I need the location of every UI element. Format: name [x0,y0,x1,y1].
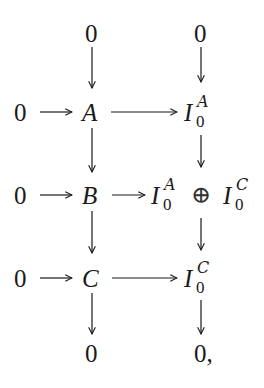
sum-left-sub: 0 [163,196,172,213]
injective-i0c: I C 0 [184,266,224,298]
top-left-zero: 0 [85,21,98,46]
row-c-zero: 0 [14,266,27,291]
i0a-base: I [184,99,192,126]
injective-i0a: I A 0 [184,100,224,132]
top-right-zero: 0 [194,21,207,46]
bottom-left-zero: 0 [85,341,98,366]
i0a-sup: A [197,94,209,110]
sum-right-sub: 0 [235,196,244,213]
object-a: A [82,100,97,125]
object-c: C [82,266,99,291]
i0c-sup: C [197,260,209,276]
i0c-sub: 0 [196,279,205,296]
i0c-base: I [184,265,192,292]
row-a-zero: 0 [14,100,27,125]
row-b-zero: 0 [14,183,27,208]
i0a-sub: 0 [196,113,205,130]
object-b: B [82,183,97,208]
sum-right-sup: C [236,177,248,193]
bottom-right-zero: 0, [194,341,213,366]
sum-right-base: I [223,183,231,208]
sum-left-sup: A [164,177,176,193]
sum-left-base: I [151,183,159,208]
direct-sum: I A 0 ⊕ I C 0 [151,183,261,215]
oplus-symbol: ⊕ [191,183,211,207]
